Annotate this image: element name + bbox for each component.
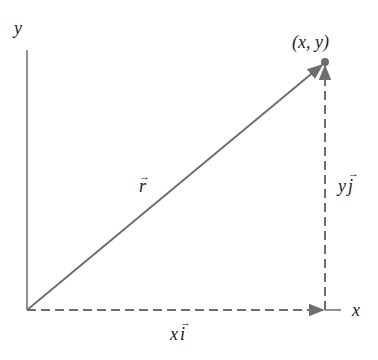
y-component-unit: j <box>346 176 353 196</box>
y-component-arrow: → <box>348 167 359 179</box>
point-label: (x, y) <box>292 32 329 53</box>
x-axis-label: x <box>351 300 360 320</box>
vector-r-arrow: → <box>139 170 150 182</box>
y-axis-label: y <box>12 18 22 38</box>
x-component-arrow: → <box>180 316 191 328</box>
y-component-label: y <box>336 176 346 196</box>
position-vector-r <box>27 65 322 310</box>
vector-diagram: y x (x, y) r → y j → x i → <box>0 0 378 360</box>
x-component-label: x <box>169 324 178 344</box>
point-dot <box>321 58 329 66</box>
